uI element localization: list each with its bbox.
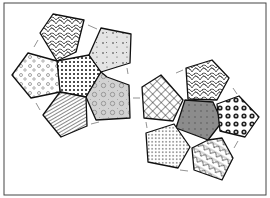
dodecahedron-net-diagram xyxy=(0,0,270,198)
diagram-frame xyxy=(0,0,270,198)
